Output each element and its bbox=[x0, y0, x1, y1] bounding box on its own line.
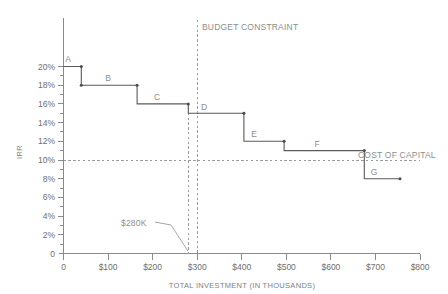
x-tick-label-800: $800 bbox=[411, 262, 430, 272]
step-dot-f bbox=[283, 140, 286, 143]
x-tick-label-500: $500 bbox=[277, 262, 296, 272]
step-series bbox=[64, 65, 402, 180]
callout-280k-label: $280K bbox=[121, 218, 147, 228]
budget-constraint-label: BUDGET CONSTRAINT bbox=[202, 22, 298, 32]
step-dot-b bbox=[80, 84, 83, 87]
y-tick-label-12: 12% bbox=[38, 136, 55, 146]
callout-280k-leader bbox=[155, 222, 188, 251]
irr-investment-step-chart: 0 2% 4% 6% 8% 10% 12% 14% 16% 18% 20% IR… bbox=[0, 0, 448, 294]
x-tick-label-200: $200 bbox=[143, 262, 162, 272]
y-axis-title: IRR bbox=[15, 145, 24, 159]
x-axis-tick-labels: 0 $100 $200 $300 $400 $500 $600 $700 $80… bbox=[61, 262, 430, 272]
x-axis-title: TOTAL INVESTMENT (IN THOUSANDS) bbox=[169, 281, 316, 290]
y-tick-label-10: 10% bbox=[38, 155, 55, 165]
step-label-f: F bbox=[314, 139, 319, 149]
step-label-a: A bbox=[65, 54, 71, 64]
y-tick-label-20: 20% bbox=[38, 62, 55, 72]
y-tick-label-0: 0 bbox=[50, 249, 55, 259]
step-dot-a bbox=[80, 65, 83, 68]
y-tick-label-18: 18% bbox=[38, 80, 55, 90]
x-tick-label-0: 0 bbox=[61, 262, 66, 272]
step-label-e: E bbox=[251, 129, 257, 139]
chart-svg: 0 2% 4% 6% 8% 10% 12% 14% 16% 18% 20% IR… bbox=[0, 0, 448, 294]
y-axis-tick-labels: 0 2% 4% 6% 8% 10% 12% 14% 16% 18% 20% bbox=[38, 62, 55, 259]
step-dot-e bbox=[242, 112, 245, 115]
step-labels: A B C D E F G bbox=[65, 54, 377, 177]
x-tick-label-400: $400 bbox=[232, 262, 251, 272]
axes bbox=[64, 18, 421, 254]
y-tick-label-2: 2% bbox=[43, 230, 56, 240]
step-dot-end bbox=[399, 177, 402, 180]
step-label-g: G bbox=[371, 167, 378, 177]
step-path bbox=[64, 67, 401, 179]
x-tick-label-100: $100 bbox=[99, 262, 118, 272]
cost-of-capital-label: COST OF CAPITAL bbox=[358, 150, 436, 160]
step-dot-d bbox=[187, 102, 190, 105]
y-tick-label-14: 14% bbox=[38, 118, 55, 128]
x-axis-ticks bbox=[64, 254, 421, 260]
y-tick-label-6: 6% bbox=[43, 192, 56, 202]
y-tick-label-4: 4% bbox=[43, 211, 56, 221]
step-dot-c bbox=[136, 84, 139, 87]
x-tick-label-300: $300 bbox=[188, 262, 207, 272]
y-axis-ticks bbox=[58, 67, 64, 254]
y-tick-label-16: 16% bbox=[38, 99, 55, 109]
step-dot-g bbox=[363, 149, 366, 152]
step-label-d: D bbox=[201, 102, 207, 112]
step-label-c: C bbox=[154, 92, 160, 102]
x-tick-label-700: $700 bbox=[366, 262, 385, 272]
y-tick-label-8: 8% bbox=[43, 174, 56, 184]
step-label-b: B bbox=[105, 73, 111, 83]
x-tick-label-600: $600 bbox=[321, 262, 340, 272]
